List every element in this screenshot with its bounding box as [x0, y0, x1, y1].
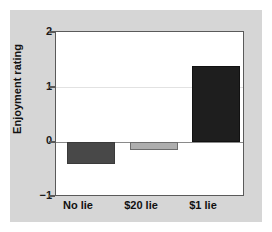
- plot-frame: [55, 31, 244, 196]
- y-axis-ticks: 2 1 0 −1: [28, 0, 52, 232]
- x-tick-label-1-lie: $1 lie: [167, 199, 239, 211]
- bar-no-lie: [67, 142, 115, 164]
- x-tick-label-no-lie: No lie: [42, 199, 114, 211]
- bar-1-lie: [192, 66, 240, 142]
- plot-area: [56, 32, 243, 195]
- chart-figure: Enjoyment rating 2 1 0 −1 No lie $20 lie…: [0, 0, 272, 232]
- y-axis-title: Enjoyment rating: [11, 41, 23, 137]
- bar-20-lie: [130, 142, 178, 150]
